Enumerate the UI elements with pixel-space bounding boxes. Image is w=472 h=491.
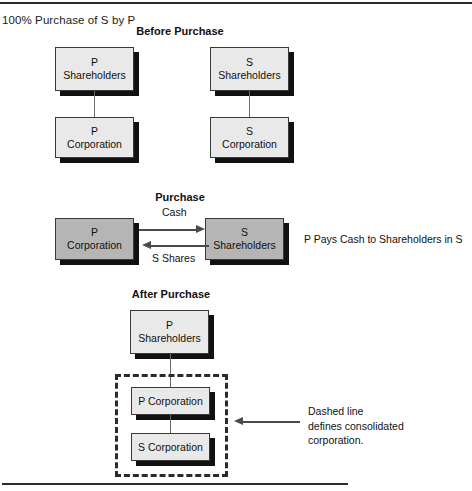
node-label-line1: S [213, 226, 275, 239]
node-label-line1: S [222, 125, 277, 138]
note-purchase-line1: P Pays Cash to Shareholders in S [304, 232, 463, 247]
note-after-line2: defines consolidated [308, 419, 404, 434]
node-label-line1: P [63, 56, 125, 69]
edge-label-cash: Cash [162, 206, 187, 218]
bottom-rule [2, 483, 348, 485]
arrow-line-cash [139, 229, 197, 231]
node-label-line1: S [218, 56, 280, 69]
connector-before-s-shareholders-to-s-corporation [249, 91, 250, 117]
node-label-line1: P [138, 319, 200, 332]
note-after-line3: corporation. [308, 433, 404, 448]
node-before-s-corporation: S Corporation [210, 117, 289, 158]
node-after-p-shareholders: P Shareholders [130, 310, 209, 354]
node-purchase-s-shareholders: S Shareholders [205, 218, 284, 260]
node-label-line1: P [67, 125, 122, 138]
arrow-line-s-shares [151, 245, 209, 247]
node-label-line2: Corporation [67, 138, 122, 151]
arrowhead-s-shares-left-icon [142, 241, 151, 249]
node-label-line2: Corporation [67, 239, 122, 252]
connector-before-p-shareholders-to-p-corporation [94, 91, 95, 117]
node-label-line2: Shareholders [138, 332, 200, 345]
node-label-line1: P Corporation [138, 395, 203, 408]
section-heading-before-purchase: Before Purchase [130, 25, 230, 37]
section-heading-purchase: Purchase [130, 191, 230, 203]
node-label-line2: Shareholders [218, 69, 280, 82]
node-label-line2: Corporation [222, 138, 277, 151]
node-label-line2: Shareholders [63, 69, 125, 82]
note-purchase: P Pays Cash to Shareholders in S [304, 232, 463, 247]
node-label-line1: S Corporation [138, 441, 203, 454]
node-before-s-shareholders: S Shareholders [210, 47, 289, 91]
note-after-purchase: Dashed line defines consolidated corpora… [308, 404, 404, 448]
node-purchase-p-corporation: P Corporation [55, 218, 134, 260]
note-after-line1: Dashed line [308, 404, 404, 419]
section-heading-after-purchase: After Purchase [121, 288, 221, 300]
top-rule [0, 2, 472, 4]
edge-label-s-shares: S Shares [152, 252, 195, 264]
node-after-s-corporation: S Corporation [131, 433, 210, 461]
node-label-line1: P [67, 226, 122, 239]
figure-title: 100% Purchase of S by P [2, 14, 135, 26]
arrowhead-cash-right-icon [196, 225, 205, 233]
arrow-line-dashed-note [243, 421, 300, 423]
node-before-p-corporation: P Corporation [55, 117, 134, 158]
arrowhead-dashed-note-left-icon [234, 417, 243, 425]
node-label-line2: Shareholders [213, 239, 275, 252]
node-before-p-shareholders: P Shareholders [55, 47, 134, 91]
figure-canvas: 100% Purchase of S by P Before Purchase … [0, 0, 472, 491]
connector-after-p-corporation-to-s-corporation [170, 415, 171, 435]
node-after-p-corporation: P Corporation [131, 387, 210, 415]
